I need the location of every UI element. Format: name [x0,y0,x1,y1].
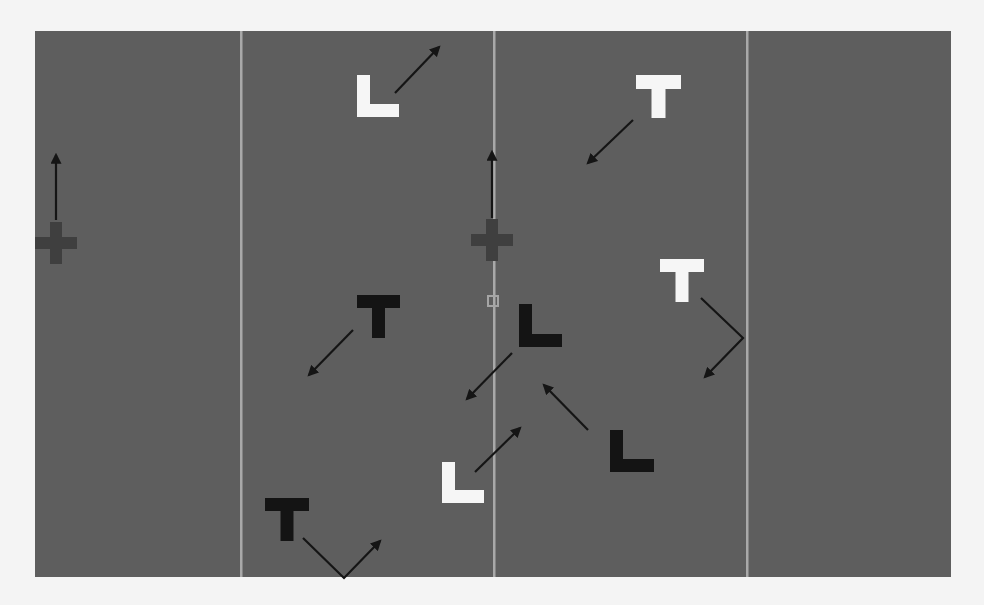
divider-line [746,31,749,577]
letter-T-glyph [372,295,385,338]
stimulus-display [0,0,984,605]
divider-line [240,31,243,577]
letter-L-glyph [610,459,654,472]
visual-search-diagram [0,0,984,605]
letter-T-glyph [676,259,689,302]
letter-L-glyph [357,104,399,117]
letter-L-glyph [519,334,562,347]
letter-T-glyph [281,498,294,541]
divider-line [493,31,496,577]
letter-L-glyph [442,490,484,503]
letter-T-glyph [652,75,666,118]
